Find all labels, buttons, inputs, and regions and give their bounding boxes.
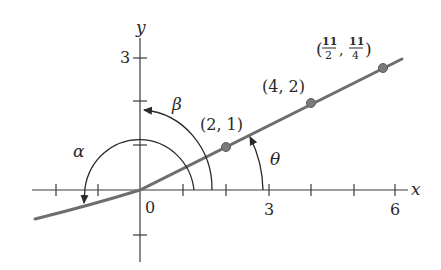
x-tick-label-3: 3: [264, 200, 274, 219]
x-axis: [32, 184, 408, 196]
angle-diagram: y x 0 3 6 3 α β θ (2, 1) (4, 2) ( 11 2 ,…: [0, 0, 441, 270]
x-axis-label: x: [411, 179, 421, 199]
point-label-2-1: (2, 1): [200, 115, 243, 134]
svg-text:4: 4: [352, 49, 359, 62]
x-tick-label-6: 6: [390, 200, 400, 219]
svg-text:,: ,: [339, 42, 343, 58]
line-curve: [35, 59, 402, 219]
point-11-2-11-4: [379, 64, 388, 73]
alpha-label: α: [73, 141, 85, 161]
point-2-1: [222, 143, 231, 152]
svg-text:2: 2: [325, 49, 332, 62]
point-4-2: [307, 99, 316, 108]
point-label-11-2-11-4: ( 11 2 , 11 4 ): [316, 35, 372, 62]
theta-label: θ: [270, 149, 280, 169]
svg-text:): ): [365, 39, 372, 59]
y-tick-label-3: 3: [120, 48, 130, 67]
y-axis-label: y: [135, 17, 146, 37]
svg-text:11: 11: [349, 35, 364, 48]
origin-label: 0: [145, 198, 155, 217]
theta-arc: [250, 137, 263, 190]
beta-label: β: [171, 94, 182, 114]
y-axis: [133, 38, 147, 262]
svg-text:11: 11: [322, 35, 337, 48]
point-label-4-2: (4, 2): [262, 77, 305, 96]
